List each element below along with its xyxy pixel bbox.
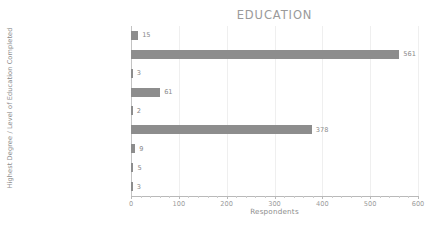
bar-value-label: 2 xyxy=(137,107,141,115)
x-axis-tick-label: 600 xyxy=(398,200,432,208)
bar-row: PhD or Higher9 xyxy=(131,139,418,158)
bar-value-label: 9 xyxy=(139,145,143,153)
bar[interactable] xyxy=(131,182,133,191)
x-axis-tick xyxy=(227,196,228,199)
x-axis-minor-tick xyxy=(341,196,342,198)
bar-value-label: 15 xyxy=(142,31,150,39)
bar-value-label: 3 xyxy=(137,69,141,77)
x-axis-minor-tick xyxy=(169,196,170,198)
bar-row: Master's Degree378 xyxy=(131,120,418,139)
x-axis-minor-tick xyxy=(389,196,390,198)
x-axis-minor-tick xyxy=(303,196,304,198)
bar-value-label: 3 xyxy=(137,183,141,191)
x-axis-title: Respondents xyxy=(131,207,418,216)
x-axis-minor-tick xyxy=(141,196,142,198)
x-axis-minor-tick xyxy=(217,196,218,198)
x-axis-tick-label: 400 xyxy=(302,200,342,208)
education-bar-chart: EDUCATION Highest Degree / Level of Educ… xyxy=(0,0,432,225)
x-axis-minor-tick xyxy=(188,196,189,198)
x-axis-minor-tick xyxy=(313,196,314,198)
bar-row: Less than High School2 xyxy=(131,102,418,121)
x-axis-minor-tick xyxy=(236,196,237,198)
x-axis-minor-tick xyxy=(160,196,161,198)
bar[interactable] xyxy=(131,125,312,134)
x-axis-minor-tick xyxy=(294,196,295,198)
x-axis-tick-label: 500 xyxy=(350,200,390,208)
x-axis-minor-tick xyxy=(332,196,333,198)
x-axis-minor-tick xyxy=(198,196,199,198)
bar-value-label: 61 xyxy=(164,88,172,96)
chart-title: EDUCATION xyxy=(131,8,418,22)
bar-row: Trade School5 xyxy=(131,158,418,177)
bar-value-label: 5 xyxy=(137,164,141,172)
x-axis-tick xyxy=(179,196,180,199)
x-axis-minor-tick xyxy=(265,196,266,198)
y-axis-title: Highest Degree / Level of Education Comp… xyxy=(6,8,18,208)
x-axis-minor-tick xyxy=(246,196,247,198)
x-axis-minor-tick xyxy=(255,196,256,198)
x-axis-tick xyxy=(131,196,132,199)
x-axis-minor-tick xyxy=(351,196,352,198)
x-axis-tick-label: 300 xyxy=(255,200,295,208)
bar-value-label: 561 xyxy=(403,50,416,58)
x-axis-tick-label: 0 xyxy=(111,200,151,208)
x-axis-minor-tick xyxy=(361,196,362,198)
x-axis-minor-tick xyxy=(399,196,400,198)
x-axis-minor-tick xyxy=(284,196,285,198)
x-gridline xyxy=(418,26,419,196)
bar[interactable] xyxy=(131,88,160,97)
x-axis-tick xyxy=(275,196,276,199)
bar-row: High School Degree or Equivalent61 xyxy=(131,83,418,102)
x-axis-tick-label: 200 xyxy=(207,200,247,208)
bar[interactable] xyxy=(131,31,138,40)
bar[interactable] xyxy=(131,50,399,59)
x-axis-tick xyxy=(370,196,371,199)
bar[interactable] xyxy=(131,144,135,153)
bar-row: Bachelor's Degree + Certificate3 xyxy=(131,64,418,83)
x-axis-tick xyxy=(418,196,419,199)
bar-row: Bachelor's Degree561 xyxy=(131,45,418,64)
bar[interactable] xyxy=(131,69,133,78)
x-axis-minor-tick xyxy=(380,196,381,198)
x-axis-tick-label: 100 xyxy=(159,200,199,208)
x-axis-minor-tick xyxy=(150,196,151,198)
x-axis-minor-tick xyxy=(408,196,409,198)
bar[interactable] xyxy=(131,163,133,172)
x-axis-tick xyxy=(322,196,323,199)
bar-row: Prefer not to answer3 xyxy=(131,177,418,196)
bar-value-label: 378 xyxy=(316,126,329,134)
bar-row: Associate's Degree15 xyxy=(131,26,418,45)
bar[interactable] xyxy=(131,106,133,115)
x-axis-minor-tick xyxy=(208,196,209,198)
